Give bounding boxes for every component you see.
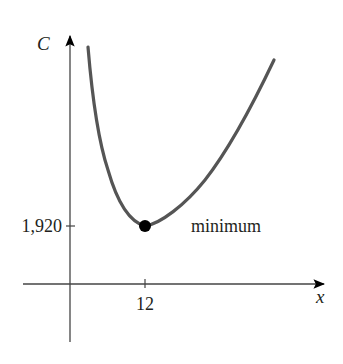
minimum-point: [139, 220, 151, 232]
cost-curve: [88, 47, 274, 226]
minimum-annotation: minimum: [191, 216, 261, 236]
y-axis-label: C: [37, 33, 50, 54]
x-axis-label: x: [315, 286, 325, 307]
x-tick-label: 12: [136, 294, 154, 314]
y-tick-label: 1,920: [22, 216, 63, 236]
cost-curve-chart: C x 1,920 12 minimum: [0, 0, 343, 364]
